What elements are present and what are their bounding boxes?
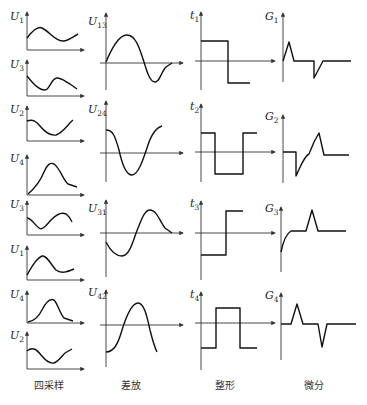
caption-differentiate: 微分 <box>304 379 324 391</box>
plot-t4: t4 <box>190 288 275 370</box>
axis-label: G4 <box>265 289 279 304</box>
axis-label: U42 <box>88 286 107 301</box>
axis-label: t1 <box>190 9 199 24</box>
axis-label: U3 <box>10 198 24 213</box>
plot-u1-b: U1 <box>10 243 84 280</box>
axis-label: U13 <box>88 15 107 30</box>
plot-g1: G1 <box>265 10 351 82</box>
plot-u31: U31 <box>88 200 183 277</box>
plot-u13: U13 <box>88 13 183 90</box>
axis-label: G3 <box>265 202 279 217</box>
caption-shaping: 整形 <box>215 379 235 391</box>
diagram-canvas: U1 U3 U2 U4 U3 <box>0 0 367 405</box>
shaping-column: t1 t2 t3 t4 整形 <box>190 9 275 391</box>
axis-label: U1 <box>10 243 24 258</box>
plot-u42: U42 <box>88 286 183 367</box>
plot-u24: U24 <box>88 101 183 182</box>
axis-label: U2 <box>10 103 24 118</box>
axis-label: U4 <box>10 152 24 167</box>
axis-label: G2 <box>265 110 279 125</box>
plot-u2-b: U2 <box>10 329 84 369</box>
plot-g2: G2 <box>265 110 349 183</box>
differentiate-column: G1 G2 G3 G4 微分 <box>265 10 356 391</box>
axis-label: U2 <box>10 329 24 344</box>
plot-t2: t2 <box>190 100 275 182</box>
plot-u4-a: U4 <box>10 152 84 195</box>
plot-u1-a: U1 <box>10 10 84 50</box>
plot-u3-a: U3 <box>10 58 84 96</box>
axis-label: G1 <box>265 10 279 25</box>
axis-label: U24 <box>88 103 107 118</box>
plot-u4-b: U4 <box>10 288 84 323</box>
axis-label: t3 <box>190 197 199 212</box>
plot-u2-a: U2 <box>10 103 84 141</box>
diff-amp-column: U13 U24 U31 U42 差放 <box>88 13 183 391</box>
plot-u3-b: U3 <box>10 198 84 235</box>
caption-sampling: 四采样 <box>34 379 64 391</box>
axis-label: U1 <box>10 10 24 25</box>
plot-t1: t1 <box>190 9 275 90</box>
axis-label: t2 <box>190 100 199 115</box>
signal-processing-diagram: U1 U3 U2 U4 U3 <box>0 0 367 405</box>
axis-label: t4 <box>190 288 199 303</box>
plot-t3: t3 <box>190 197 275 280</box>
axis-label: U31 <box>88 202 107 217</box>
axis-label: U4 <box>10 288 24 303</box>
plot-g4: G4 <box>265 289 356 360</box>
sampling-column: U1 U3 U2 U4 U3 <box>10 10 84 391</box>
plot-g3: G3 <box>265 202 346 272</box>
caption-diff-amp: 差放 <box>121 379 141 391</box>
axis-label: U3 <box>10 58 24 73</box>
